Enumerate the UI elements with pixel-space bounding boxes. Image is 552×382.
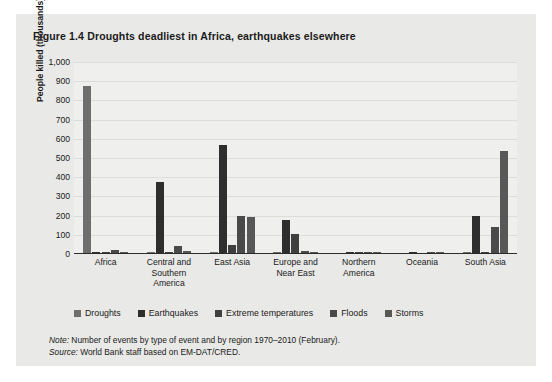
bar xyxy=(247,217,255,253)
legend-item[interactable]: Extreme temperatures xyxy=(215,308,313,318)
x-axis-label: Oceania xyxy=(390,257,453,289)
bar xyxy=(102,252,110,253)
y-tick-label: 300 xyxy=(26,191,70,201)
y-axis-tick-labels: 1,0009008007006005004003002001000 xyxy=(24,62,70,254)
legend-item[interactable]: Storms xyxy=(385,308,424,318)
y-tick-label: 700 xyxy=(26,115,70,125)
bar-group xyxy=(327,62,390,253)
legend-swatch-icon xyxy=(215,310,222,317)
legend-item[interactable]: Floods xyxy=(330,308,367,318)
legend-swatch-icon xyxy=(74,310,81,317)
plot-canvas xyxy=(74,62,517,254)
bar xyxy=(174,246,182,253)
legend-swatch-icon xyxy=(385,310,392,317)
bar xyxy=(373,252,381,253)
bar-groups xyxy=(74,62,517,253)
bar xyxy=(346,252,354,253)
bar-group xyxy=(454,62,517,253)
bar xyxy=(436,252,444,253)
legend-label: Droughts xyxy=(85,308,121,318)
y-tick-label: 200 xyxy=(26,211,70,221)
bar-group xyxy=(74,62,137,253)
legend-label: Extreme temperatures xyxy=(226,308,313,318)
legend-swatch-icon xyxy=(330,310,337,317)
source-label: Source: xyxy=(49,347,78,357)
bar xyxy=(472,216,480,253)
bar-group xyxy=(137,62,200,253)
legend-label: Earthquakes xyxy=(149,308,198,318)
bar xyxy=(409,252,417,253)
legend-swatch-icon xyxy=(138,310,145,317)
figure-notes: Note: Number of events by type of event … xyxy=(49,335,519,358)
bar xyxy=(210,252,218,253)
legend-label: Floods xyxy=(341,308,367,318)
x-axis-label: South Asia xyxy=(454,257,517,289)
note-line: Note: Number of events by type of event … xyxy=(49,335,519,347)
bar xyxy=(183,251,191,253)
x-axis-label: East Asia xyxy=(201,257,264,289)
bar xyxy=(156,182,164,253)
chart-legend: DroughtsEarthquakesExtreme temperaturesF… xyxy=(74,308,534,318)
bar xyxy=(228,245,236,253)
bar xyxy=(165,252,173,253)
bar xyxy=(111,250,119,253)
x-axis-label: Northern America xyxy=(327,257,390,289)
note-text: Number of events by type of event and by… xyxy=(69,335,340,345)
x-axis-label: Africa xyxy=(74,257,137,289)
bar xyxy=(364,252,372,253)
bar-group xyxy=(390,62,453,253)
bar xyxy=(463,252,471,253)
y-tick-label: 0 xyxy=(26,249,70,259)
y-tick-label: 400 xyxy=(26,172,70,182)
bar-group xyxy=(201,62,264,253)
bar xyxy=(301,251,309,253)
bar xyxy=(92,252,100,253)
bar xyxy=(83,86,91,253)
bar xyxy=(427,252,435,253)
y-tick-label: 500 xyxy=(26,153,70,163)
note-label: Note: xyxy=(49,335,69,345)
legend-item[interactable]: Droughts xyxy=(74,308,121,318)
bar xyxy=(481,252,489,253)
source-line: Source: World Bank staff based on EM-DAT… xyxy=(49,347,519,359)
source-text: World Bank staff based on EM-DAT/CRED. xyxy=(78,347,240,357)
bar xyxy=(120,252,128,253)
y-tick-label: 900 xyxy=(26,76,70,86)
y-tick-label: 800 xyxy=(26,95,70,105)
bar-group xyxy=(264,62,327,253)
x-axis-label: Europe and Near East xyxy=(264,257,327,289)
bar xyxy=(310,252,318,253)
y-tick-label: 600 xyxy=(26,134,70,144)
bar xyxy=(500,151,508,253)
figure-title: Figure 1.4 Droughts deadliest in Africa,… xyxy=(33,30,356,42)
bar xyxy=(219,145,227,253)
x-axis-label: Central and Southern America xyxy=(137,257,200,289)
bar xyxy=(147,252,155,253)
y-tick-label: 100 xyxy=(26,230,70,240)
bar xyxy=(273,252,281,253)
bar xyxy=(282,220,290,253)
legend-item[interactable]: Earthquakes xyxy=(138,308,198,318)
legend-label: Storms xyxy=(396,308,424,318)
figure-panel: Figure 1.4 Droughts deadliest in Africa,… xyxy=(16,14,536,366)
bar xyxy=(291,234,299,253)
bar xyxy=(237,216,245,253)
y-tick-label: 1,000 xyxy=(26,57,70,67)
plot-area xyxy=(74,62,517,254)
x-axis-category-labels: AfricaCentral and Southern AmericaEast A… xyxy=(74,257,517,289)
bar xyxy=(491,227,499,253)
bar xyxy=(355,252,363,253)
